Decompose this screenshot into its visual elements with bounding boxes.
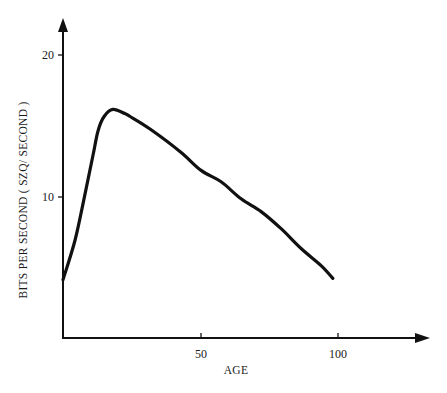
y-axis-label: BITS PER SECOND ( SZQ/ SECOND )	[17, 101, 30, 298]
x-tick-label-50: 50	[195, 347, 207, 361]
x-tick-label-100: 100	[329, 347, 347, 361]
y-tick-label-10: 10	[42, 190, 54, 204]
x-axis-label: AGE	[224, 364, 249, 376]
axes	[62, 28, 418, 339]
y-tick-label-20: 20	[42, 48, 54, 62]
x-axis-arrow-icon	[415, 333, 430, 343]
y-axis-arrow-icon	[58, 18, 68, 32]
ticks	[58, 55, 338, 338]
chart: 20 10 50 100 AGE BITS PER SECOND ( SZQ/ …	[0, 0, 447, 393]
data-line	[63, 109, 333, 279]
